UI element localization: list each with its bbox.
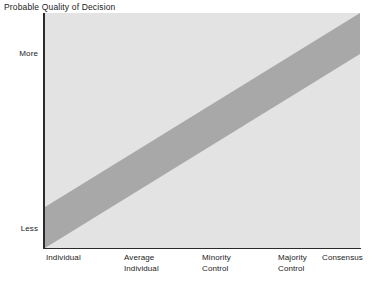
y-tick-label-more: More	[2, 49, 38, 58]
y-axis-line	[43, 13, 45, 249]
x-tick-label-average-individual: Average Individual	[124, 253, 159, 274]
chart-title: Probable Quality of Decision	[4, 2, 115, 12]
x-tick-label-individual: Individual	[46, 253, 81, 264]
plot-area	[45, 13, 360, 248]
chart-figure: Probable Quality of Decision More Less I…	[0, 0, 369, 290]
x-tick-label-consensus: Consensus	[322, 253, 363, 264]
x-axis-tick-labels: Individual Average Individual Minority C…	[0, 253, 369, 287]
trend-band-icon	[45, 13, 360, 248]
x-tick-label-minority-control: Minority Control	[202, 253, 231, 274]
x-axis-line	[43, 248, 361, 249]
x-tick-label-majority-control: Majority Control	[278, 253, 307, 274]
y-tick-label-less: Less	[2, 224, 38, 233]
